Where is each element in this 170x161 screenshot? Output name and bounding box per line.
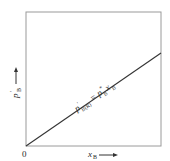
- origin-label: 0: [22, 149, 27, 159]
- x-arrowhead-icon: [113, 153, 118, 157]
- y-arrowhead-icon: [14, 67, 18, 72]
- svg-text:B: B: [16, 88, 22, 92]
- x-axis-label: x B: [87, 149, 118, 160]
- svg-text:p: p: [10, 93, 20, 99]
- line-equation: p ′ B(R) = p * B x B: [71, 78, 118, 116]
- svg-text:x: x: [87, 149, 92, 159]
- y-axis-label: p ′ B: [9, 67, 22, 99]
- svg-text:′: ′: [9, 90, 15, 92]
- svg-text:B: B: [93, 154, 97, 160]
- svg-text:B(R): B(R): [80, 101, 93, 113]
- raoult-law-diagram: 0 x B p ′ B p ′ B(R) = p * B x B: [0, 0, 170, 161]
- plot-frame: [26, 12, 161, 146]
